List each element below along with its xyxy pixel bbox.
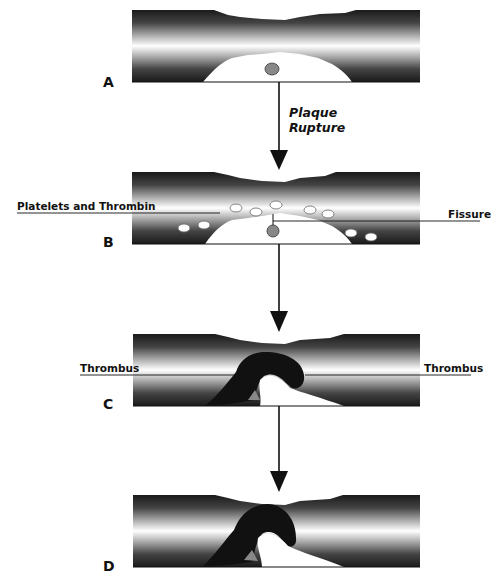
- vessel-a: [132, 10, 420, 82]
- vessel-c: [133, 334, 420, 406]
- thrombus-left-label: Thrombus: [80, 362, 139, 374]
- fissure-label: Fissure: [448, 208, 491, 220]
- plaque-rupture-label: Plaque Rupture: [289, 105, 345, 135]
- lipid-core: [265, 63, 279, 75]
- thrombus-right-label: Thrombus: [424, 362, 483, 374]
- stage-label-c: C: [103, 396, 113, 412]
- platelets-thrombin-label: Platelets and Thrombin: [17, 200, 155, 212]
- arrow-b-to-c: [270, 244, 288, 332]
- arrow-c-to-d: [270, 406, 288, 492]
- stage-label-a: A: [103, 74, 114, 90]
- vessel-d: [133, 495, 420, 567]
- arrow-a-to-b: [270, 82, 288, 170]
- stage-label-d: D: [103, 558, 115, 574]
- diagram-canvas: [0, 0, 493, 577]
- plaque-rupture-line2: Rupture: [289, 120, 345, 135]
- stage-label-b: B: [103, 234, 114, 250]
- plaque-rupture-line1: Plaque: [289, 105, 345, 120]
- vessel-b: [132, 172, 420, 244]
